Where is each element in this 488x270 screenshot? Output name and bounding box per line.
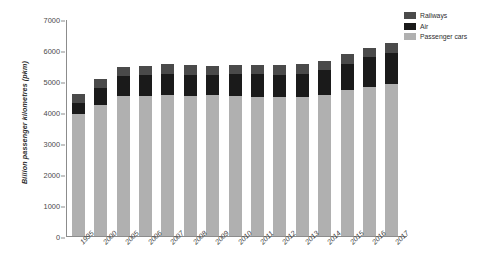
stacked-bar[interactable] <box>117 67 130 236</box>
bar-segment-passenger-cars <box>273 97 286 236</box>
bar-slot <box>291 20 313 236</box>
bar-segment-passenger-cars <box>251 97 264 237</box>
bar-segment-passenger-cars <box>206 95 219 236</box>
y-tick-label: 1000 <box>44 202 60 211</box>
bar-segment-railways <box>229 65 242 74</box>
bar-segment-passenger-cars <box>184 96 197 236</box>
bar-segment-passenger-cars <box>229 96 242 236</box>
bar-segment-railways <box>273 65 286 75</box>
bar-segment-air <box>72 103 85 113</box>
railways-swatch <box>404 12 416 19</box>
bar-segment-passenger-cars <box>385 84 398 236</box>
legend-label: Railways <box>420 12 447 19</box>
y-tick-mark <box>61 20 65 21</box>
bar-segment-passenger-cars <box>363 87 376 236</box>
bar-segment-air <box>184 75 197 96</box>
stacked-bar[interactable] <box>229 65 242 236</box>
stacked-bar[interactable] <box>94 79 107 236</box>
y-tick-mark <box>61 175 65 176</box>
bar-segment-railways <box>363 48 376 58</box>
bar-segment-railways <box>117 67 130 76</box>
bar-segment-railways <box>296 64 309 74</box>
bar-segment-railways <box>184 65 197 74</box>
bar-series-group <box>67 20 403 236</box>
bar-slot <box>224 20 246 236</box>
chart-legend: RailwaysAirPassenger cars <box>404 12 467 44</box>
bar-slot <box>313 20 335 236</box>
bar-segment-railways <box>251 65 264 75</box>
bar-segment-railways <box>206 66 219 75</box>
bar-segment-railways <box>94 79 107 88</box>
y-axis-title: Billion passenger kilometres (pkm) <box>20 33 29 213</box>
bar-slot <box>246 20 268 236</box>
bar-segment-railways <box>139 66 152 75</box>
bar-segment-passenger-cars <box>318 95 331 236</box>
bar-segment-air <box>318 70 331 94</box>
legend-item[interactable]: Air <box>404 23 467 30</box>
bar-segment-railways <box>341 54 354 64</box>
bar-slot <box>358 20 380 236</box>
stacked-bar-chart: Billion passenger kilometres (pkm) 01000… <box>0 0 488 270</box>
bar-slot <box>336 20 358 236</box>
legend-item[interactable]: Passenger cars <box>404 33 467 40</box>
stacked-bar[interactable] <box>139 66 152 236</box>
air-swatch <box>404 23 416 30</box>
bar-segment-air <box>341 64 354 90</box>
bar-segment-railways <box>161 64 174 73</box>
bar-segment-passenger-cars <box>341 90 354 236</box>
y-tick-label: 7000 <box>44 16 60 25</box>
y-tick-label: 5000 <box>44 78 60 87</box>
stacked-bar[interactable] <box>251 65 264 236</box>
y-tick-mark <box>61 206 65 207</box>
y-tick-label: 3000 <box>44 140 60 149</box>
bar-segment-passenger-cars <box>296 97 309 237</box>
passenger-cars-swatch <box>404 33 416 40</box>
y-tick-mark <box>61 113 65 114</box>
bar-segment-railways <box>385 43 398 53</box>
y-tick-label: 2000 <box>44 171 60 180</box>
y-tick-label: 6000 <box>44 47 60 56</box>
stacked-bar[interactable] <box>341 54 354 236</box>
bar-segment-passenger-cars <box>117 96 130 236</box>
y-tick-label: 4000 <box>44 109 60 118</box>
stacked-bar[interactable] <box>161 64 174 236</box>
bar-segment-air <box>385 53 398 84</box>
bar-segment-air <box>139 75 152 96</box>
bar-slot <box>269 20 291 236</box>
bar-segment-air <box>117 76 130 96</box>
bar-segment-passenger-cars <box>94 105 107 236</box>
stacked-bar[interactable] <box>296 64 309 236</box>
bar-slot <box>381 20 403 236</box>
stacked-bar[interactable] <box>385 43 398 236</box>
legend-label: Passenger cars <box>420 33 467 40</box>
bar-segment-air <box>363 57 376 86</box>
legend-item[interactable]: Railways <box>404 12 467 19</box>
bar-slot <box>89 20 111 236</box>
bar-slot <box>67 20 89 236</box>
y-tick-mark <box>61 51 65 52</box>
y-tick-label: 0 <box>56 233 60 242</box>
bar-segment-railways <box>72 94 85 103</box>
bar-segment-air <box>206 75 219 96</box>
bar-slot <box>134 20 156 236</box>
bar-segment-air <box>251 74 264 96</box>
bar-segment-passenger-cars <box>161 95 174 236</box>
bar-segment-passenger-cars <box>139 96 152 236</box>
bar-segment-air <box>273 75 286 97</box>
y-tick-mark <box>61 237 65 238</box>
bar-segment-air <box>229 74 242 96</box>
stacked-bar[interactable] <box>273 65 286 236</box>
stacked-bar[interactable] <box>363 48 376 236</box>
bar-slot <box>179 20 201 236</box>
bar-segment-railways <box>318 61 331 71</box>
stacked-bar[interactable] <box>206 66 219 236</box>
legend-label: Air <box>420 23 428 30</box>
bar-segment-air <box>296 74 309 97</box>
stacked-bar[interactable] <box>318 61 331 236</box>
stacked-bar[interactable] <box>184 65 197 236</box>
bar-slot <box>157 20 179 236</box>
stacked-bar[interactable] <box>72 94 85 236</box>
y-tick-mark <box>61 144 65 145</box>
bar-slot <box>201 20 223 236</box>
bar-segment-air <box>94 88 107 104</box>
